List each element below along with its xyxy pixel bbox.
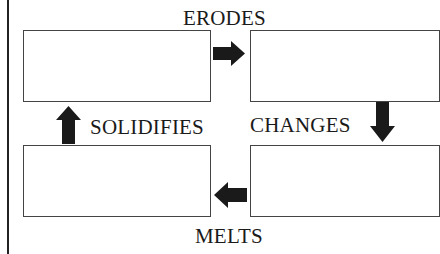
arrow-right-icon bbox=[213, 41, 246, 66]
arrow-up-icon bbox=[56, 106, 81, 144]
box-bottom-left[interactable] bbox=[23, 145, 211, 217]
box-bottom-right[interactable] bbox=[250, 145, 440, 217]
box-top-left[interactable] bbox=[23, 30, 211, 102]
left-border-line bbox=[7, 0, 9, 254]
label-solidifies: SOLIDIFIES bbox=[90, 117, 204, 138]
label-melts: MELTS bbox=[195, 226, 263, 247]
box-top-right[interactable] bbox=[250, 30, 440, 102]
arrow-down-icon bbox=[370, 102, 395, 142]
label-erodes: ERODES bbox=[183, 8, 266, 29]
label-changes: CHANGES bbox=[250, 115, 351, 136]
arrow-left-icon bbox=[214, 182, 247, 208]
